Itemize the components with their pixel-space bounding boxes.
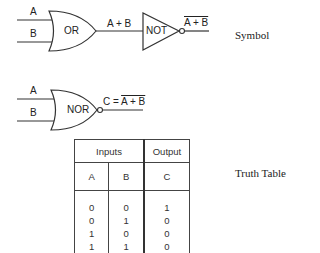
truth-table: Inputs Output A B C 0 0 1 0 1 0 1 0 0 1 … [74,139,190,253]
header-output: Output [144,140,190,163]
header-inputs: Inputs [75,140,145,163]
cell-c: 0 [144,214,190,227]
table-row: 1 1 0 [75,240,190,253]
cell-c: 0 [144,227,190,240]
not-bubble [180,29,185,34]
cell-a: 0 [75,214,109,227]
cell-b: 1 [109,240,144,253]
column-header-c: C [144,163,190,191]
or-input-b-label: B [30,28,37,39]
table-row: 1 0 0 [75,227,190,240]
not-gate-label: NOT [146,25,167,36]
cell-c: 0 [144,240,190,253]
cell-a: 1 [75,240,109,253]
not-output-label: A + B [184,17,208,28]
cell-c: 1 [144,201,190,214]
or-gate-label: OR [64,25,79,36]
cell-b: 0 [109,227,144,240]
nor-output-prefix: C = [103,96,121,107]
cell-b: 0 [109,201,144,214]
table-row: 0 0 1 [75,201,190,214]
nor-gate-label: NOR [67,104,89,115]
nor-input-a-label: A [30,85,37,96]
truth-table-caption: Truth Table [235,167,286,179]
column-header-b: B [109,163,144,191]
nor-output-expr: A + B [121,96,145,107]
cell-b: 1 [109,214,144,227]
cell-a: 1 [75,227,109,240]
table-row: 0 1 0 [75,214,190,227]
nor-bubble [98,108,103,113]
symbol-caption: Symbol [235,29,269,41]
column-header-a: A [75,163,109,191]
cell-a: 0 [75,201,109,214]
nor-input-b-label: B [30,107,37,118]
nor-output-label: C = A + B [103,96,145,107]
or-input-a-label: A [30,6,37,17]
or-output-label: A + B [107,18,131,29]
